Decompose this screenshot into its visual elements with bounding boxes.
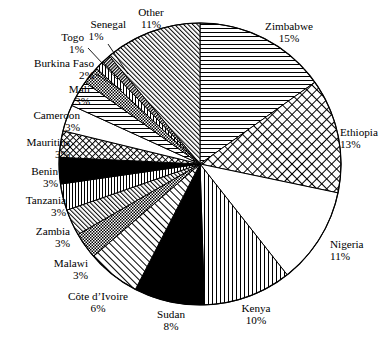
label-kenya-pct: 10% — [228, 314, 284, 326]
label-tanzania-pct: 3% — [4, 206, 66, 218]
label-cameroon-name: Cameroon — [6, 109, 80, 121]
label-senegal-pct: 1% — [84, 30, 108, 42]
label-other: Other 11% — [118, 6, 184, 30]
label-zambia-pct: 3% — [16, 237, 70, 249]
label-ethiopia-pct: 13% — [340, 138, 392, 150]
label-senegal-pct-wrap: 1% — [84, 30, 108, 42]
label-cameroon: Cameroon 3% — [6, 109, 80, 133]
label-senegal-name: Senegal — [64, 18, 126, 30]
label-other-pct: 11% — [118, 18, 184, 30]
label-zimbabwe: Zimbabwe 15% — [248, 20, 330, 44]
label-mauritius-pct: 3% — [0, 148, 70, 160]
label-burkina-faso-pct: 2% — [18, 69, 94, 81]
label-sudan-name: Sudan — [142, 308, 200, 320]
label-mauritius: Mauritius 3% — [0, 136, 70, 160]
label-nigeria: Nigeria 11% — [330, 238, 388, 262]
label-malawi: Malawi 3% — [32, 257, 88, 281]
label-senegal: Senegal — [64, 18, 126, 30]
label-mali-name: Mali — [34, 83, 90, 95]
label-kenya: Kenya 10% — [228, 302, 284, 326]
label-zimbabwe-pct: 15% — [248, 32, 330, 44]
label-ethiopia-name: Ethiopia — [340, 126, 392, 138]
label-cote-divoire-pct: 6% — [56, 302, 140, 314]
label-mali: Mali 3% — [34, 83, 90, 107]
label-togo-name: Togo — [40, 31, 84, 43]
label-kenya-name: Kenya — [228, 302, 284, 314]
label-cameroon-pct: 3% — [6, 121, 80, 133]
label-ethiopia: Ethiopia 13% — [340, 126, 392, 150]
label-sudan-pct: 8% — [142, 320, 200, 332]
pie-slices-exact — [59, 23, 341, 305]
label-nigeria-name: Nigeria — [330, 238, 388, 250]
label-zambia: Zambia 3% — [16, 225, 70, 249]
label-malawi-pct: 3% — [32, 269, 88, 281]
label-tanzania-name: Tanzania — [4, 194, 66, 206]
label-togo-pct: 1% — [40, 43, 84, 55]
label-benin-name: Benin — [6, 165, 58, 177]
label-benin-pct: 3% — [6, 177, 58, 189]
label-cote-divoire-name: Côte d’Ivoire — [56, 290, 140, 302]
label-malawi-name: Malawi — [32, 257, 88, 269]
label-cote-divoire: Côte d’Ivoire 6% — [56, 290, 140, 314]
label-togo: Togo 1% — [40, 31, 84, 55]
label-other-name: Other — [118, 6, 184, 18]
label-zambia-name: Zambia — [16, 225, 70, 237]
label-burkina-faso: Burkina Faso 2% — [18, 57, 94, 81]
label-zimbabwe-name: Zimbabwe — [248, 20, 330, 32]
label-burkina-faso-name: Burkina Faso — [18, 57, 94, 69]
label-mali-pct: 3% — [34, 95, 90, 107]
pie-chart: Other 11% Senegal 1% Togo 1% Burkina Fas… — [0, 0, 392, 343]
label-nigeria-pct: 11% — [330, 250, 388, 262]
label-benin: Benin 3% — [6, 165, 58, 189]
label-tanzania: Tanzania 3% — [4, 194, 66, 218]
label-mauritius-name: Mauritius — [0, 136, 70, 148]
label-sudan: Sudan 8% — [142, 308, 200, 332]
